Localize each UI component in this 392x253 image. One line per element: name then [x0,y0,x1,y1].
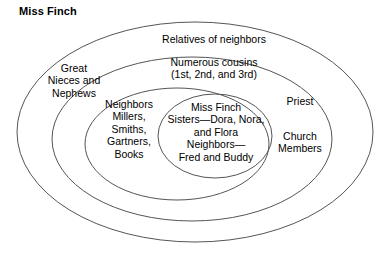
concentric-ellipse-diagram: Miss Finch Relatives of neighbors Numero… [0,0,392,253]
ring-label-numerous-cousins: Numerous cousins (1st, 2nd, and 3rd) [138,56,290,81]
ring-label-priest: Priest [271,95,329,107]
ring-label-great-nieces-and-nephews: Great Nieces and Nephews [32,62,116,99]
ring-label-core-inner-circle: Miss Finch Sisters—Dora, Nora, and Flora… [157,101,275,163]
ring-label-relatives-of-neighbors: Relatives of neighbors [131,33,297,45]
